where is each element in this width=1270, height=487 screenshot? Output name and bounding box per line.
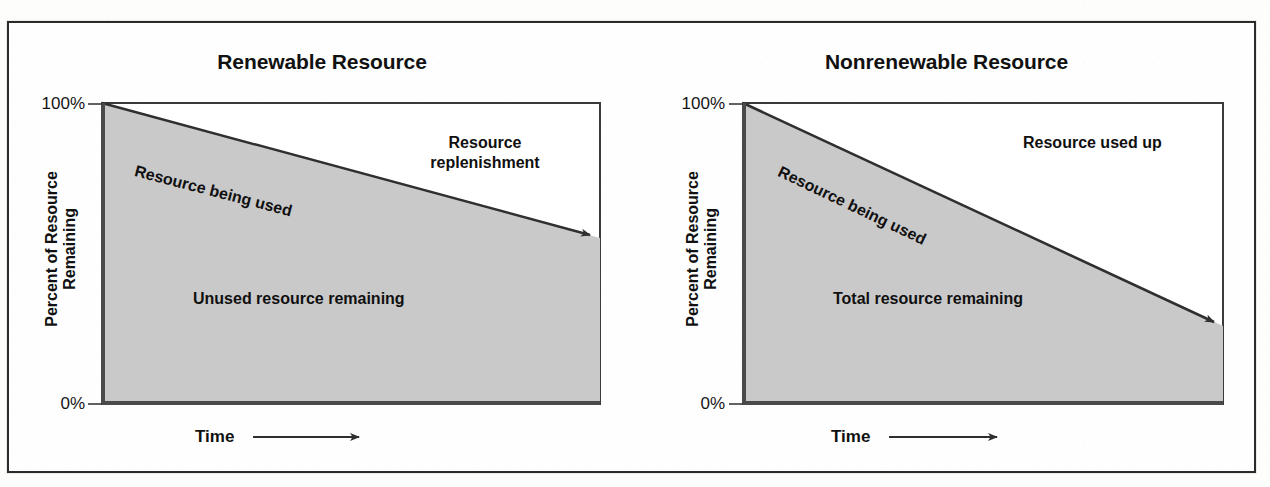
y-axis-title-line1: Percent of Resource <box>684 139 702 359</box>
y-tick-label-0-nonrenewable: 0% <box>671 394 725 414</box>
y-axis-title-line1: Percent of Resource <box>43 139 61 359</box>
plot-renewable <box>7 21 637 473</box>
plot-nonrenewable <box>637 21 1256 473</box>
panel-nonrenewable-resource: Nonrenewable Resource 100% 0 <box>637 21 1256 473</box>
panel-renewable-resource: Renewable Resource 100% 0% <box>7 21 637 473</box>
y-axis-title-nonrenewable: Percent of Resource Remaining <box>684 139 720 359</box>
y-tick-label-100-nonrenewable: 100% <box>671 94 725 114</box>
annot-resource-replenishment-line2: replenishment <box>405 153 565 173</box>
annot-resource-replenishment: Resource replenishment <box>405 133 565 172</box>
y-axis-title-line2: Remaining <box>61 139 79 359</box>
annot-resource-used-up: Resource used up <box>1023 133 1162 153</box>
annot-unused-resource-remaining: Unused resource remaining <box>193 289 405 309</box>
y-axis-title-line2: Remaining <box>702 139 720 359</box>
x-axis-title-renewable: Time <box>195 427 234 447</box>
annot-resource-replenishment-line1: Resource <box>405 133 565 153</box>
y-tick-label-0-renewable: 0% <box>31 394 85 414</box>
x-axis-title-nonrenewable: Time <box>831 427 870 447</box>
y-tick-label-100-renewable: 100% <box>31 94 85 114</box>
y-axis-title-renewable: Percent of Resource Remaining <box>43 139 79 359</box>
figure-page: Renewable Resource 100% 0% <box>0 0 1270 487</box>
page-bleed-through-ghost-text <box>930 474 1260 486</box>
annot-total-resource-remaining: Total resource remaining <box>833 289 1023 309</box>
